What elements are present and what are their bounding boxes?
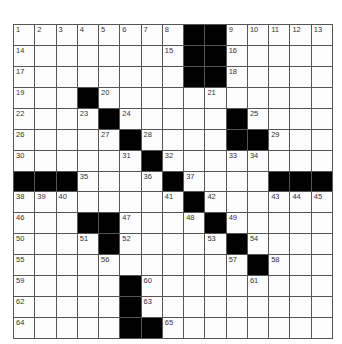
grid-cell[interactable]: 44	[290, 192, 310, 212]
grid-cell[interactable]	[35, 255, 55, 275]
grid-cell[interactable]	[57, 234, 77, 254]
grid-cell[interactable]: 62	[14, 297, 34, 317]
grid-cell[interactable]: 33	[227, 151, 247, 171]
grid-cell[interactable]: 45	[312, 192, 332, 212]
grid-cell[interactable]	[205, 255, 225, 275]
grid-cell[interactable]	[312, 234, 332, 254]
grid-cell[interactable]	[312, 88, 332, 108]
grid-cell[interactable]	[290, 130, 310, 150]
grid-cell[interactable]	[35, 297, 55, 317]
grid-cell[interactable]	[269, 276, 289, 296]
grid-cell[interactable]	[120, 172, 140, 192]
grid-cell[interactable]	[57, 151, 77, 171]
grid-cell[interactable]	[99, 276, 119, 296]
grid-cell[interactable]: 34	[248, 151, 268, 171]
grid-cell[interactable]	[184, 151, 204, 171]
grid-cell[interactable]	[290, 318, 310, 338]
grid-cell[interactable]: 48	[184, 213, 204, 233]
grid-cell[interactable]	[269, 88, 289, 108]
grid-cell[interactable]	[78, 192, 98, 212]
grid-cell[interactable]	[184, 88, 204, 108]
grid-cell[interactable]	[290, 234, 310, 254]
grid-cell[interactable]	[290, 213, 310, 233]
grid-cell[interactable]	[120, 88, 140, 108]
grid-cell[interactable]	[290, 297, 310, 317]
grid-cell[interactable]	[163, 130, 183, 150]
grid-cell[interactable]: 60	[142, 276, 162, 296]
grid-cell[interactable]	[120, 46, 140, 66]
grid-cell[interactable]	[205, 276, 225, 296]
grid-cell[interactable]	[248, 88, 268, 108]
grid-cell[interactable]: 59	[14, 276, 34, 296]
grid-cell[interactable]	[57, 297, 77, 317]
grid-cell[interactable]	[312, 297, 332, 317]
grid-cell[interactable]	[163, 297, 183, 317]
grid-cell[interactable]: 41	[163, 192, 183, 212]
grid-cell[interactable]	[163, 67, 183, 87]
grid-cell[interactable]	[35, 88, 55, 108]
grid-cell[interactable]: 4	[78, 25, 98, 45]
grid-cell[interactable]	[142, 109, 162, 129]
grid-cell[interactable]	[78, 46, 98, 66]
grid-cell[interactable]	[57, 130, 77, 150]
grid-cell[interactable]	[184, 255, 204, 275]
grid-cell[interactable]: 29	[269, 130, 289, 150]
grid-cell[interactable]	[269, 151, 289, 171]
grid-cell[interactable]	[163, 109, 183, 129]
grid-cell[interactable]	[142, 88, 162, 108]
grid-cell[interactable]	[78, 130, 98, 150]
grid-cell[interactable]: 52	[120, 234, 140, 254]
grid-cell[interactable]: 3	[57, 25, 77, 45]
grid-cell[interactable]	[35, 130, 55, 150]
grid-cell[interactable]	[142, 213, 162, 233]
grid-cell[interactable]	[142, 46, 162, 66]
grid-cell[interactable]	[120, 192, 140, 212]
grid-cell[interactable]	[290, 46, 310, 66]
grid-cell[interactable]	[35, 67, 55, 87]
grid-cell[interactable]: 6	[120, 25, 140, 45]
grid-cell[interactable]: 16	[227, 46, 247, 66]
grid-cell[interactable]	[205, 151, 225, 171]
grid-cell[interactable]: 11	[269, 25, 289, 45]
grid-cell[interactable]	[184, 130, 204, 150]
grid-cell[interactable]	[99, 192, 119, 212]
grid-cell[interactable]: 58	[269, 255, 289, 275]
grid-cell[interactable]	[35, 151, 55, 171]
grid-cell[interactable]	[142, 192, 162, 212]
grid-cell[interactable]: 17	[14, 67, 34, 87]
grid-cell[interactable]	[248, 192, 268, 212]
grid-cell[interactable]	[35, 276, 55, 296]
grid-cell[interactable]: 37	[184, 172, 204, 192]
grid-cell[interactable]	[120, 67, 140, 87]
grid-cell[interactable]	[78, 297, 98, 317]
grid-cell[interactable]	[184, 109, 204, 129]
grid-cell[interactable]	[57, 88, 77, 108]
grid-cell[interactable]	[205, 172, 225, 192]
grid-cell[interactable]	[227, 318, 247, 338]
grid-cell[interactable]: 30	[14, 151, 34, 171]
grid-cell[interactable]	[248, 318, 268, 338]
grid-cell[interactable]	[57, 46, 77, 66]
grid-cell[interactable]	[312, 109, 332, 129]
grid-cell[interactable]	[248, 46, 268, 66]
grid-cell[interactable]	[205, 109, 225, 129]
grid-cell[interactable]	[290, 109, 310, 129]
grid-cell[interactable]: 31	[120, 151, 140, 171]
grid-cell[interactable]: 20	[99, 88, 119, 108]
grid-cell[interactable]: 39	[35, 192, 55, 212]
grid-cell[interactable]: 61	[248, 276, 268, 296]
grid-cell[interactable]	[205, 318, 225, 338]
grid-cell[interactable]	[248, 172, 268, 192]
grid-cell[interactable]	[35, 46, 55, 66]
grid-cell[interactable]: 43	[269, 192, 289, 212]
grid-cell[interactable]	[290, 88, 310, 108]
grid-cell[interactable]	[269, 46, 289, 66]
grid-cell[interactable]	[142, 234, 162, 254]
grid-cell[interactable]	[312, 67, 332, 87]
grid-cell[interactable]	[269, 234, 289, 254]
grid-cell[interactable]: 24	[120, 109, 140, 129]
grid-cell[interactable]: 26	[14, 130, 34, 150]
grid-cell[interactable]: 51	[78, 234, 98, 254]
grid-cell[interactable]	[312, 151, 332, 171]
grid-cell[interactable]	[57, 109, 77, 129]
